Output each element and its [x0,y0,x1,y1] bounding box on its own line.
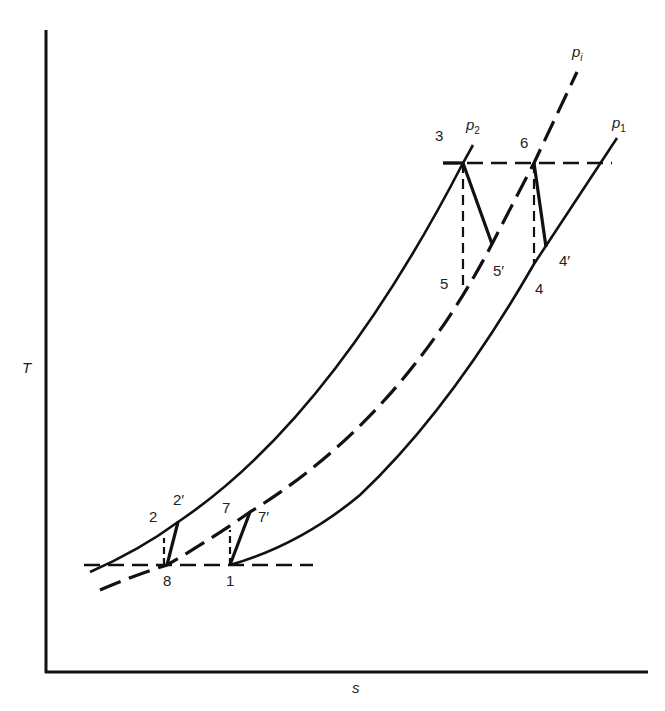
process-3-5prime-actual [463,163,492,244]
point-2-label: 2 [149,509,157,524]
turbine-processes [463,163,546,290]
compressor-processes [164,512,250,565]
t-s-diagram [0,0,665,711]
isobar-pi-label-sub: i [580,52,582,63]
point-4prime-label: 4′ [559,253,570,268]
point-4-label: 4 [535,281,543,296]
point-7prime-label: 7′ [258,509,269,524]
point-7-label: 7 [222,500,230,515]
isobar-p1-label: p1 [612,115,626,130]
x-axis-label: s [352,680,360,695]
point-8-label: 8 [163,573,171,588]
point-5-label: 5 [440,276,448,291]
isobar-p2-label-sub: 2 [474,125,480,136]
y-axis-label: T [22,360,31,375]
isobar-p2-curve [90,145,473,572]
point-6-label: 6 [520,135,528,150]
process-6-4prime-actual [534,163,546,247]
isobar-p1-label-sub: 1 [620,123,626,134]
point-3-label: 3 [435,128,443,143]
isobar-p2-label: p2 [466,117,480,132]
point-2prime-label: 2′ [173,492,184,507]
isobar-pi-label: pi [572,44,583,59]
point-1-label: 1 [226,573,234,588]
point-5prime-label: 5′ [493,263,504,278]
